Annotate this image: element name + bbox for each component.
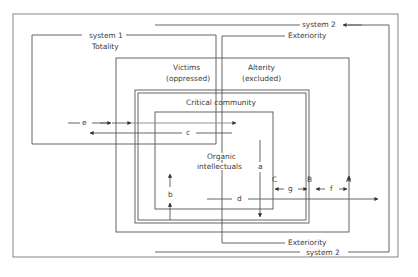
system2-boundary xyxy=(155,25,389,252)
label-arrow-c: c xyxy=(185,129,191,136)
outer-frame xyxy=(13,14,398,257)
label-alterity-sub: (excluded) xyxy=(241,75,282,82)
label-system1: system 1 xyxy=(88,32,124,39)
label-critical-community: Critical community xyxy=(185,99,257,106)
label-alterity: Alterity xyxy=(247,64,276,71)
marker-c: C xyxy=(271,176,278,183)
label-organic: Organic xyxy=(206,153,237,160)
marker-b: B xyxy=(306,176,313,183)
label-system2-bottom: system 2 xyxy=(305,249,341,256)
label-victims-sub: (oppressed) xyxy=(165,75,211,82)
label-system2-top: system 2 xyxy=(301,21,337,28)
label-arrow-f: f xyxy=(329,185,334,192)
diagram-canvas xyxy=(0,0,418,277)
label-arrow-a: a xyxy=(257,163,264,170)
label-exteriority-bottom: Exteriority xyxy=(287,239,327,246)
label-totality: Totality xyxy=(91,43,120,50)
label-intellectuals: intellectuals xyxy=(196,163,243,170)
marker-a: A xyxy=(345,176,352,183)
label-victims: Victims xyxy=(172,64,201,71)
label-arrow-d: d xyxy=(236,195,243,202)
label-arrow-g: g xyxy=(287,185,294,192)
label-exteriority-top: Exteriority xyxy=(287,32,327,39)
label-arrow-e: e xyxy=(81,119,88,126)
label-arrow-b: b xyxy=(167,191,174,198)
victims-alterity-box xyxy=(116,58,349,232)
